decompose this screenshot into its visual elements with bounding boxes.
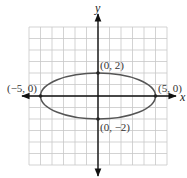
point-top (96, 71, 100, 75)
label-bottom: (0, −2) (100, 121, 130, 134)
point-left (39, 94, 43, 98)
label-right: (5, 0) (158, 82, 182, 95)
y-axis-label: y (94, 1, 101, 15)
label-top: (0, 2) (100, 59, 124, 72)
ellipse-graph: y x (0, 2) (0, −2) (−5, 0) (5, 0) (0, 0, 187, 178)
label-left: (−5, 0) (7, 82, 37, 95)
point-right (154, 94, 158, 98)
